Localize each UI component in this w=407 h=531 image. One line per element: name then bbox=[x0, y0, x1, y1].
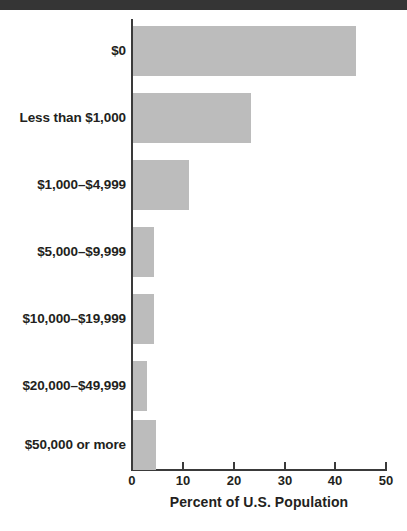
bar-value bbox=[133, 227, 154, 277]
x-axis-tick-label: 10 bbox=[163, 473, 203, 488]
x-axis-tick bbox=[284, 462, 286, 470]
category-label: $50,000 or more bbox=[0, 420, 126, 470]
x-axis-tick bbox=[131, 462, 133, 470]
x-axis-tick bbox=[182, 462, 184, 470]
category-label: $20,000–$49,999 bbox=[0, 361, 126, 411]
x-axis-tick bbox=[385, 462, 387, 470]
x-axis-tick-label: 20 bbox=[214, 473, 254, 488]
bar-value bbox=[133, 160, 189, 210]
x-axis-tick-label: 40 bbox=[315, 473, 355, 488]
bar-row: $20,000–$49,999 bbox=[0, 361, 407, 411]
bar-value bbox=[133, 26, 356, 76]
bar-value bbox=[133, 93, 251, 143]
category-label: Less than $1,000 bbox=[0, 93, 126, 143]
bar-row: $50,000 or more bbox=[0, 420, 407, 470]
category-label: $5,000–$9,999 bbox=[0, 227, 126, 277]
category-label: $1,000–$4,999 bbox=[0, 160, 126, 210]
bar-row: $10,000–$19,999 bbox=[0, 294, 407, 344]
bar-row: $1,000–$4,999 bbox=[0, 160, 407, 210]
bar-chart-plot: $0 Less than $1,000 $1,000–$4,999 $5,000… bbox=[0, 0, 407, 531]
category-label: $10,000–$19,999 bbox=[0, 294, 126, 344]
category-label: $0 bbox=[0, 26, 126, 76]
bar-value bbox=[133, 361, 147, 411]
bar-row: Less than $1,000 bbox=[0, 93, 407, 143]
x-axis-tick-label: 50 bbox=[366, 473, 406, 488]
chart-page: $0 Less than $1,000 $1,000–$4,999 $5,000… bbox=[0, 0, 407, 531]
bar-row: $5,000–$9,999 bbox=[0, 227, 407, 277]
bar-value bbox=[133, 294, 154, 344]
bar-value bbox=[133, 420, 156, 470]
x-axis-tick-label: 30 bbox=[265, 473, 305, 488]
x-axis-tick bbox=[233, 462, 235, 470]
x-axis-tick bbox=[334, 462, 336, 470]
x-axis-title: Percent of U.S. Population bbox=[131, 494, 387, 510]
x-axis-tick-label: 0 bbox=[112, 473, 152, 488]
bar-row: $0 bbox=[0, 26, 407, 76]
